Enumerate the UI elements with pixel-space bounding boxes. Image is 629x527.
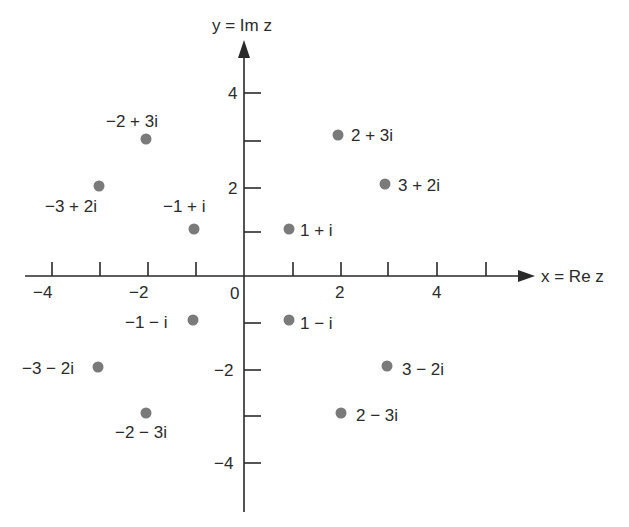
point-label: −1 + i bbox=[163, 198, 206, 215]
point-label: 1 − i bbox=[300, 315, 333, 332]
point-3p2i bbox=[380, 179, 391, 190]
y-tick-label: −2 bbox=[214, 362, 233, 379]
x-axis-title: x = Re z bbox=[541, 268, 604, 285]
point-1mi bbox=[284, 315, 295, 326]
point-label: −3 − 2i bbox=[22, 360, 74, 377]
point-m1mi bbox=[188, 315, 199, 326]
origin-label: 0 bbox=[230, 285, 239, 302]
complex-plane-plot bbox=[0, 0, 629, 527]
point-3m2i bbox=[382, 361, 393, 372]
x-axis bbox=[25, 262, 520, 276]
data-points bbox=[93, 130, 393, 419]
x-tick-label: 4 bbox=[432, 284, 441, 301]
point-1pi bbox=[284, 224, 295, 235]
point-m3m2i bbox=[93, 362, 104, 373]
point-m3p2i bbox=[94, 181, 105, 192]
x-tick-label: 2 bbox=[335, 284, 344, 301]
y-axis-arrow-icon bbox=[238, 40, 250, 58]
point-m2m3i bbox=[141, 408, 152, 419]
point-label: −3 + 2i bbox=[45, 198, 97, 215]
point-label: 1 + i bbox=[300, 222, 333, 239]
point-label: −1 − i bbox=[125, 314, 168, 331]
point-label: 2 − 3i bbox=[356, 407, 398, 424]
point-label: 2 + 3i bbox=[351, 127, 393, 144]
point-m1pi bbox=[189, 224, 200, 235]
point-2m3i bbox=[336, 408, 347, 419]
point-2p3i bbox=[333, 130, 344, 141]
point-label: −2 + 3i bbox=[106, 113, 158, 130]
y-tick-label: −4 bbox=[214, 455, 233, 472]
point-m2p3i bbox=[141, 134, 152, 145]
y-axis bbox=[244, 52, 261, 512]
point-label: −2 − 3i bbox=[115, 424, 167, 441]
point-label: 3 + 2i bbox=[398, 177, 440, 194]
point-label: 3 − 2i bbox=[402, 361, 444, 378]
x-tick-label: −2 bbox=[129, 284, 148, 301]
y-axis-title: y = Im z bbox=[212, 17, 272, 34]
x-axis-arrow-icon bbox=[518, 270, 535, 282]
x-tick-label: −4 bbox=[33, 284, 52, 301]
y-tick-label: 2 bbox=[228, 180, 237, 197]
y-tick-label: 4 bbox=[228, 85, 237, 102]
